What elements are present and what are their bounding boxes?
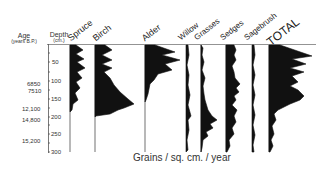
alder-curve: [145, 45, 180, 152]
sagebrush-curve: [252, 45, 255, 152]
birch-curve: [95, 45, 134, 152]
depth-axis: [48, 44, 50, 153]
x-axis-label: Grains / sq. cm. / year: [133, 152, 231, 163]
willow-curve: [186, 45, 191, 152]
total-curve: [269, 45, 312, 152]
sedges-curve: [226, 45, 240, 152]
grasses-curve: [201, 45, 217, 152]
pollen-diagram: [0, 0, 328, 174]
spruce-curve: [70, 45, 85, 152]
